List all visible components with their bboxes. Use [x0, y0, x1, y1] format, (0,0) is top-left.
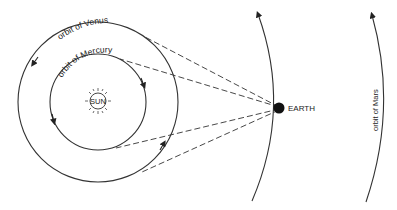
sight-line-mercury-top — [120, 59, 279, 107]
venus-orbit-label: orbit of Venus — [55, 15, 108, 42]
mars-orbit: orbit of Mars — [366, 15, 384, 202]
solar-orbits-diagram: orbit of Venus orbit of Mercury SUN — [0, 0, 397, 210]
sight-line-mercury-bottom — [116, 109, 279, 148]
sight-line-venus-top — [145, 37, 279, 107]
mercury-orbit-label: orbit of Mercury — [55, 44, 113, 79]
sun: SUN — [85, 88, 111, 114]
mars-orbit-label: orbit of Mars — [371, 89, 380, 131]
sun-label: SUN — [90, 97, 106, 106]
earth-orbit — [252, 14, 274, 201]
earth-label: EARTH — [288, 104, 315, 113]
sight-lines — [116, 37, 279, 172]
venus-direction-arrow-icon — [33, 57, 38, 64]
earth: EARTH — [274, 103, 316, 114]
earth-planet-icon — [274, 103, 285, 114]
sight-line-venus-bottom — [142, 110, 279, 172]
